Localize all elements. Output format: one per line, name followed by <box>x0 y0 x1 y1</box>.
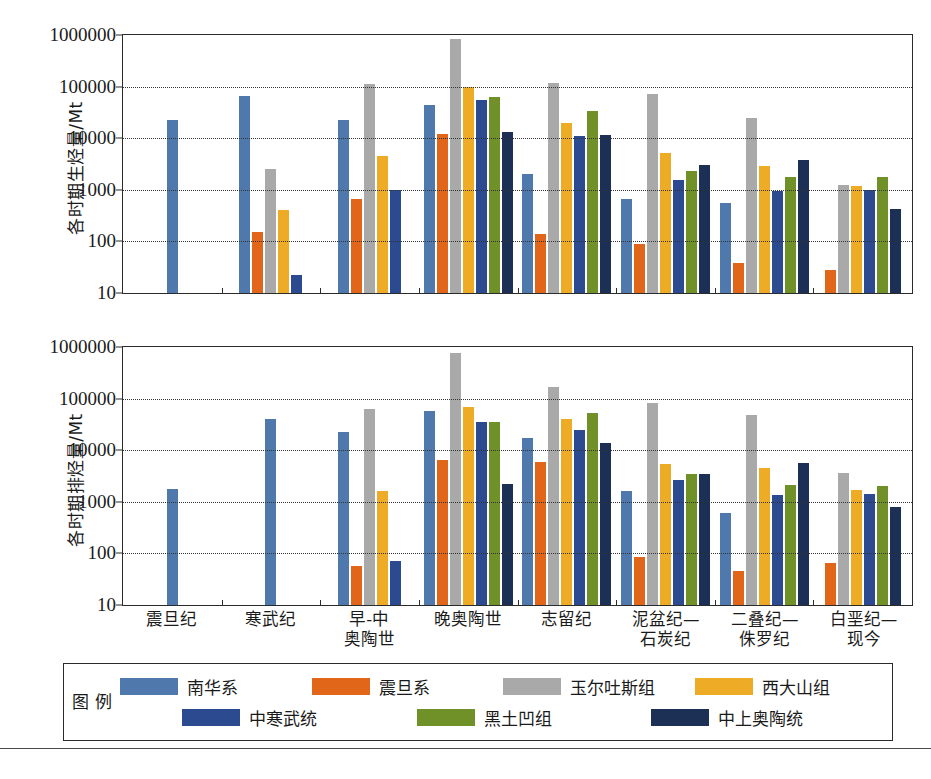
legend-title-line2: 例 <box>95 692 112 712</box>
bar <box>476 100 487 293</box>
bar-group <box>518 347 617 605</box>
y-axis-tick-mark <box>116 138 122 139</box>
y-axis-tick-label: 10 <box>97 594 116 616</box>
y-axis-tick-mark <box>116 605 122 606</box>
gridline <box>123 502 912 503</box>
bar <box>647 403 658 605</box>
legend-items: 南华系震旦系玉尔吐斯组西大山组中寒武统黑土凹组中上奥陶统 <box>120 674 892 730</box>
y-axis-tick-mark <box>116 553 122 554</box>
x-axis-label: 志留纪 <box>518 610 617 656</box>
x-axis-label: 二叠纪—侏罗纪 <box>715 610 814 656</box>
bar <box>351 566 362 605</box>
bar <box>864 494 875 605</box>
x-axis-label-line1: 早-中 <box>320 610 419 630</box>
y-axis-tick-mark <box>116 398 122 399</box>
x-axis-group-tick <box>715 288 716 293</box>
legend-color-swatch <box>695 678 753 695</box>
x-axis-label-line1: 志留纪 <box>518 610 617 630</box>
gridline <box>123 241 912 242</box>
legend-item: 中上奥陶统 <box>651 705 886 730</box>
x-axis-group-tick <box>715 600 716 605</box>
y-axis-tick-mark <box>116 86 122 87</box>
bar-group <box>320 35 419 293</box>
bar <box>621 491 632 605</box>
bar-group <box>616 35 715 293</box>
bar <box>634 557 645 605</box>
bar <box>535 234 546 293</box>
bar <box>522 174 533 293</box>
bar <box>798 160 809 293</box>
bar <box>463 407 474 605</box>
bar <box>437 460 448 605</box>
bar <box>587 413 598 605</box>
x-axis-label-line1: 寒武纪 <box>221 610 320 630</box>
bar <box>838 185 849 293</box>
x-axis-label-line2: 现今 <box>814 630 913 650</box>
bar-group <box>123 347 222 605</box>
bar <box>798 463 809 605</box>
x-axis-label-line2: 奥陶世 <box>320 630 419 650</box>
bar <box>686 474 697 605</box>
bar <box>877 486 888 605</box>
y-axis-tick-mark <box>116 35 122 36</box>
legend-color-swatch <box>312 678 370 695</box>
bar-group <box>518 35 617 293</box>
bar-groups-bottom <box>123 347 912 605</box>
y-axis-tick-mark <box>116 347 122 348</box>
x-axis-label-line1: 白垩纪— <box>814 610 913 630</box>
bar <box>746 415 757 605</box>
bar <box>522 438 533 605</box>
bar <box>785 485 796 605</box>
bar <box>450 39 461 293</box>
bar <box>746 118 757 293</box>
bar <box>699 165 710 293</box>
plot-area-top: 100000010000010000100010010 <box>122 34 913 294</box>
x-axis-group-tick <box>518 600 519 605</box>
legend-label: 西大山组 <box>762 674 830 699</box>
x-axis-group-tick <box>616 288 617 293</box>
bar <box>759 166 770 293</box>
bar <box>364 84 375 293</box>
bar <box>851 186 862 293</box>
legend-label: 中寒武统 <box>249 705 317 730</box>
bar-group <box>813 35 912 293</box>
bar-group <box>715 347 814 605</box>
x-axis-label-line1: 震旦纪 <box>122 610 221 630</box>
x-axis-label: 晚奥陶世 <box>419 610 518 656</box>
x-axis-label-line1: 二叠纪— <box>715 610 814 630</box>
bar <box>785 177 796 293</box>
x-axis-label: 白垩纪—现今 <box>814 610 913 656</box>
bar <box>838 473 849 605</box>
chart-hydrocarbon-expulsion: 各时期排烃量/Mt 100000010000010000100010010 <box>0 330 931 630</box>
bar-group <box>419 347 518 605</box>
bar <box>851 490 862 605</box>
legend-row: 中寒武统黑土凹组中上奥陶统 <box>120 705 886 730</box>
caption-rule <box>0 748 931 749</box>
bar <box>720 513 731 605</box>
bar <box>890 507 901 605</box>
bar-group <box>616 347 715 605</box>
x-axis-group-tick <box>419 600 420 605</box>
chart-hydrocarbon-generation: 各时期生烃量/Mt 100000010000010000100010010 <box>0 18 931 318</box>
x-axis-labels: 震旦纪寒武纪早-中奥陶世晚奥陶世志留纪泥盆纪—石炭纪二叠纪—侏罗纪白垩纪—现今 <box>122 610 913 656</box>
x-axis-group-tick <box>222 288 223 293</box>
bar <box>660 464 671 605</box>
x-axis-label-line2: 石炭纪 <box>616 630 715 650</box>
bar <box>825 563 836 605</box>
x-axis-label-line2: 侏罗纪 <box>715 630 814 650</box>
bar <box>364 409 375 605</box>
y-axis-tick-label: 100 <box>88 542 117 564</box>
y-axis-tick-mark <box>116 241 122 242</box>
bar <box>720 203 731 293</box>
bar-group <box>320 347 419 605</box>
legend-label: 震旦系 <box>379 674 430 699</box>
bar <box>647 94 658 293</box>
bar <box>699 474 710 605</box>
x-axis-group-tick <box>518 288 519 293</box>
y-axis-tick-mark <box>116 293 122 294</box>
bar-group <box>813 347 912 605</box>
bar <box>291 275 302 293</box>
bar <box>561 123 572 293</box>
bar-group <box>222 347 321 605</box>
legend-label: 南华系 <box>187 674 238 699</box>
